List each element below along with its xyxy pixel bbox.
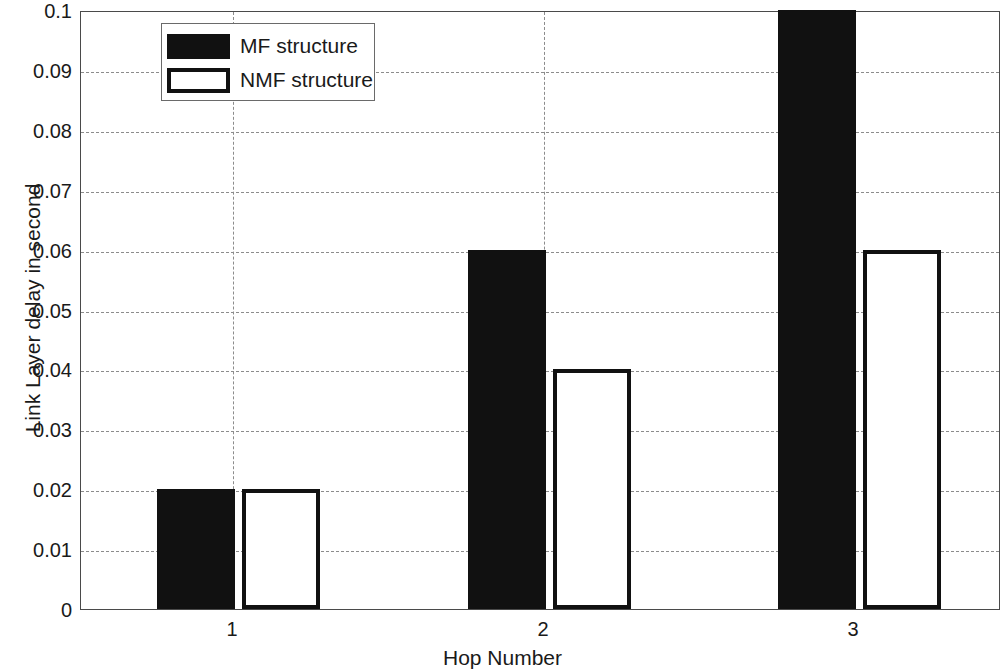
bar-nmf-hop-2	[553, 369, 631, 609]
bar-nmf-hop-3	[863, 250, 941, 609]
x-tick-label-2: 2	[537, 618, 548, 641]
legend-label-mf: MF structure	[240, 34, 358, 58]
y-axis-title: Link Layer delay in second	[21, 28, 45, 588]
x-axis-title: Hop Number	[0, 646, 1005, 670]
y-tick-label-0: 0	[0, 599, 72, 622]
x-tick-label-3: 3	[847, 618, 858, 641]
plot-area: MF structure NMF structure	[80, 11, 1000, 610]
gridline-horizontal	[81, 132, 999, 133]
legend-swatch-mf-icon	[167, 34, 230, 59]
legend: MF structure NMF structure	[161, 23, 375, 101]
legend-swatch-nmf-icon	[167, 68, 230, 93]
y-tick-label-01: 0.1	[0, 0, 72, 23]
legend-label-nmf: NMF structure	[240, 68, 373, 92]
legend-item-mf: MF structure	[167, 29, 374, 63]
bar-mf-hop-3	[778, 10, 856, 609]
gridline-horizontal	[81, 192, 999, 193]
bar-chart-figure: MF structure NMF structure 0 0.01 0.02 0…	[0, 0, 1005, 670]
bar-nmf-hop-1	[242, 489, 320, 609]
bar-mf-hop-1	[157, 489, 235, 609]
legend-item-nmf: NMF structure	[167, 63, 374, 97]
x-tick-label-1: 1	[226, 618, 237, 641]
bar-mf-hop-2	[468, 250, 546, 609]
